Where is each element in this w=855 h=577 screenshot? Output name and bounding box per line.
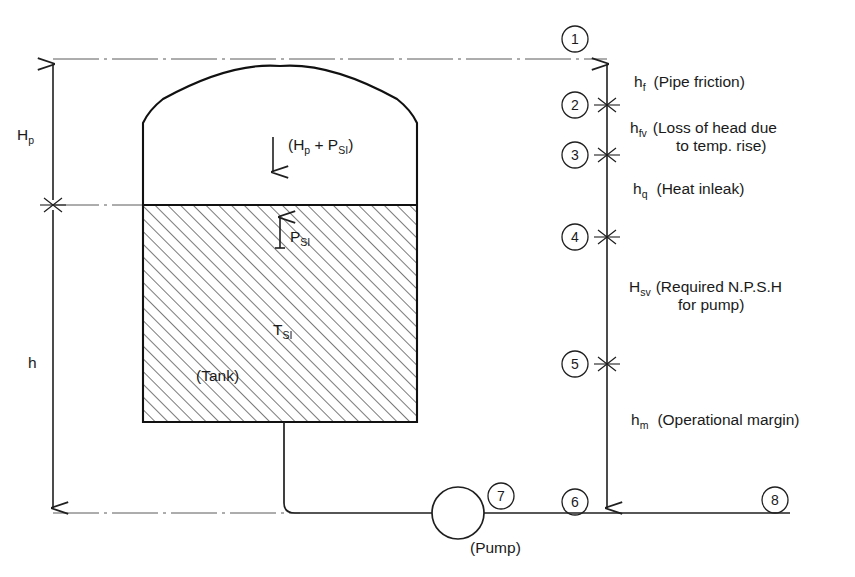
station-markers: 1 2 3 4 5 6	[488, 26, 788, 515]
station-marker-label: 2	[571, 97, 579, 113]
dimension-label-Hp: Hp	[17, 126, 34, 146]
dimension-label-hfv: hfv(Loss of head due	[630, 119, 777, 139]
station-marker-label: 4	[571, 229, 579, 245]
station-marker-3[interactable]: 3	[562, 142, 588, 168]
right-dimension-chain: hf(Pipe friction) hfv(Loss of head due t…	[594, 64, 800, 508]
station-marker-label: 7	[497, 488, 505, 504]
suction-piping	[284, 422, 432, 513]
pump-caption: (Pump)	[470, 539, 521, 556]
pump	[432, 487, 790, 539]
suction-pipe	[284, 422, 432, 513]
station-marker-label: 6	[571, 494, 579, 510]
dimension-label-hm: hm(Operational margin)	[631, 411, 800, 431]
station-marker-label: 5	[571, 356, 579, 372]
pump-suction-head-diagram: (Hp + PSI) PSI TSI (Tank) Hp h	[0, 0, 855, 577]
dimension-label-h: h	[28, 354, 37, 371]
left-dimension-chain: Hp h	[17, 64, 66, 508]
dimension-label-Hsv: Hsv(Required N.P.S.H	[629, 278, 782, 298]
dimension-label-hq: hq(Heat inleak)	[633, 180, 744, 200]
station-marker-8[interactable]: 8	[762, 487, 788, 513]
dimension-label-hfv-line2: to temp. rise)	[676, 137, 766, 154]
pump-body	[432, 487, 484, 539]
station-marker-6[interactable]: 6	[562, 489, 588, 515]
tank-caption: (Tank)	[196, 367, 239, 384]
station-marker-4[interactable]: 4	[562, 224, 588, 250]
station-marker-2[interactable]: 2	[562, 92, 588, 118]
vapour-head-label: (Hp + PSI)	[288, 136, 353, 156]
dimension-label-Hsv-line2: for pump)	[678, 296, 744, 313]
station-marker-1[interactable]: 1	[562, 26, 588, 52]
station-marker-7[interactable]: 7	[488, 483, 514, 509]
station-marker-5[interactable]: 5	[562, 351, 588, 377]
dimension-label-hf: hf(Pipe friction)	[634, 73, 745, 93]
tick-liquid-surface	[40, 198, 66, 212]
station-marker-label: 3	[571, 147, 579, 163]
station-marker-label: 8	[771, 492, 779, 508]
station-marker-label: 1	[571, 31, 579, 47]
diagram-canvas: (Hp + PSI) PSI TSI (Tank) Hp h	[0, 0, 855, 577]
